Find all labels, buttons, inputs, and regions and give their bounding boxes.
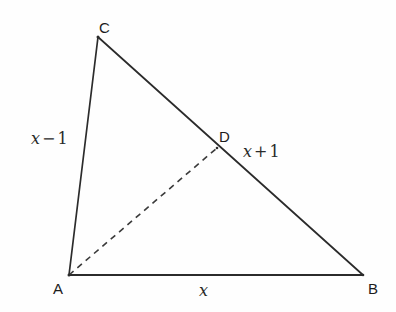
triangle-diagram-canvas [0,0,396,312]
length-label-ac-num: 1 [57,129,67,148]
length-label-ab: x [199,283,208,299]
length-label-ac-var: x [31,129,40,148]
length-label-ac-op: − [40,129,57,148]
cevian-AD [69,148,217,275]
vertex-dot-B [362,274,365,277]
length-label-ab-var: x [199,281,208,300]
vertex-label-B: B [368,281,378,296]
length-label-ac: x−1 [31,131,68,147]
vertex-dot-D [216,147,219,150]
vertex-dot-A [68,274,71,277]
vertex-label-D: D [219,129,230,144]
geometry-figure: A B C D x−1 x+1 x [0,0,396,312]
side-AC [69,37,98,275]
vertex-label-A: A [53,281,63,296]
side-CB [98,37,363,275]
length-label-db-var: x [243,142,252,161]
length-label-db: x+1 [243,144,280,160]
length-label-db-num: 1 [269,142,279,161]
length-label-db-op: + [252,142,269,161]
vertex-label-C: C [99,20,110,35]
